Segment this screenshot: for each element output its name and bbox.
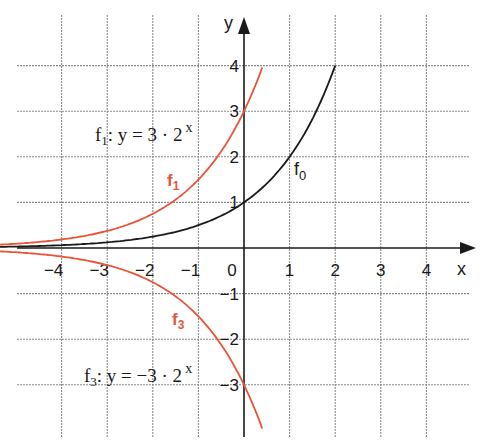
- x-tick-label: 2: [330, 261, 339, 280]
- y-axis-label: y: [224, 13, 233, 33]
- y-axis-arrow-icon: [238, 17, 250, 34]
- x-tick-label: −1: [181, 261, 200, 280]
- x-axis-arrow-icon: [460, 242, 476, 254]
- tick-labels: −4−3−2−1123404321−1−2−3: [44, 57, 431, 395]
- f0-curve-label: f0: [294, 159, 306, 183]
- f3-formula: f3: y = −3 · 2x: [84, 361, 192, 389]
- f1-curve: [0, 68, 262, 245]
- f3-curve-label: f3: [172, 310, 185, 332]
- f1-formula: f1: y = 3 · 2x: [95, 120, 192, 148]
- x-tick-label: 1: [285, 261, 294, 280]
- f1-curve-label: f1: [167, 171, 180, 193]
- y-tick-label: 4: [230, 57, 239, 76]
- y-tick-label: 3: [230, 102, 239, 121]
- x-tick-label: −4: [44, 261, 63, 280]
- origin-label: 0: [227, 261, 236, 280]
- y-tick-label: −1: [220, 285, 239, 304]
- function-plot: x y −4−3−2−1123404321−1−2−3 f1 f3 f0 f1:…: [0, 0, 486, 448]
- x-tick-label: 3: [376, 261, 385, 280]
- x-tick-label: −2: [135, 261, 154, 280]
- x-axis-label: x: [457, 259, 466, 279]
- y-tick-label: 2: [230, 148, 239, 167]
- y-tick-label: −3: [220, 376, 239, 395]
- x-tick-label: 4: [422, 261, 431, 280]
